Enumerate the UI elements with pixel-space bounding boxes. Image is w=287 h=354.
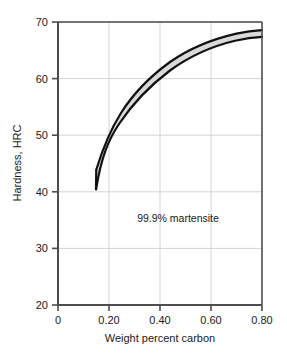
xtick-label-080: 0.80 [251,314,272,326]
ytick-label-70: 70 [36,16,48,28]
y-axis-title: Hardness, HRC [11,124,23,201]
chart-figure: 70 60 50 40 30 20 0 0.20 0.40 0.60 0.80 … [0,0,287,354]
ytick-label-50: 50 [36,129,48,141]
hardness-vs-carbon-chart: 70 60 50 40 30 20 0 0.20 0.40 0.60 0.80 … [0,0,287,354]
xtick-label-060: 0.60 [200,314,221,326]
ytick-label-20: 20 [36,299,48,311]
ytick-label-30: 30 [36,242,48,254]
ytick-label-60: 60 [36,73,48,85]
xtick-label-020: 0.20 [98,314,119,326]
x-axis-title: Weight percent carbon [105,332,215,344]
martensite-annotation: 99.9% martensite [137,212,219,224]
ytick-label-40: 40 [36,186,48,198]
xtick-label-0: 0 [55,314,61,326]
xtick-label-040: 0.40 [149,314,170,326]
